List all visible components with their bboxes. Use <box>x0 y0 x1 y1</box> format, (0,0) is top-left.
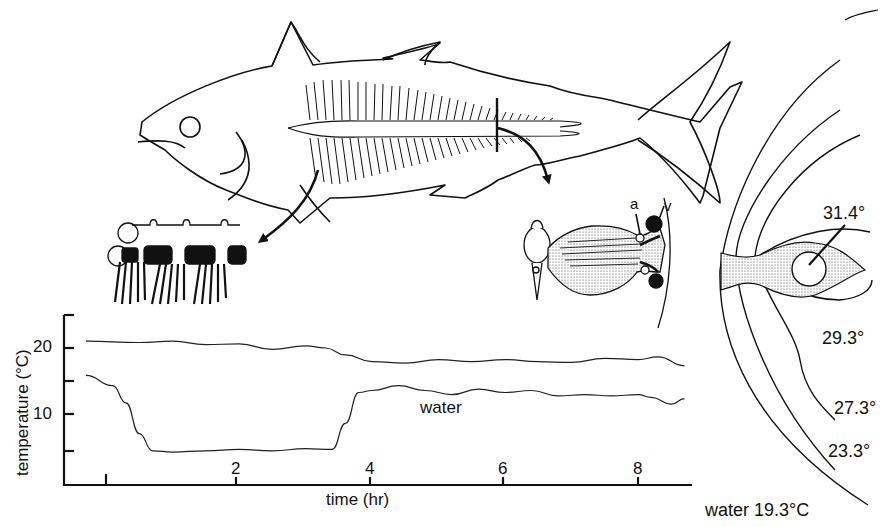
isotherm-31-4-core <box>792 252 826 286</box>
gill-filament-detail <box>108 220 246 304</box>
vein-ventral <box>649 274 663 288</box>
x-tick-6: 6 <box>498 460 507 477</box>
y-tick-20: 20 <box>33 338 52 355</box>
lateral-rete-vessels <box>288 80 581 184</box>
series-body-temperature <box>86 341 685 366</box>
artery-ventral <box>641 266 649 274</box>
fish-mouth <box>138 141 185 148</box>
fish-body-outline <box>140 22 742 223</box>
arrow-to-gill-detail <box>262 170 318 240</box>
gill-cover <box>220 132 245 174</box>
rete-cross-section-detail <box>524 198 670 328</box>
artery-label: a <box>630 196 638 211</box>
vertebra-centrum <box>524 227 550 263</box>
isotherm-label-27-3: 27.3° <box>834 399 876 417</box>
isotherm-body-section <box>720 10 878 505</box>
water-temperature-label: water 19.3°C <box>705 501 809 519</box>
x-axis <box>64 474 692 485</box>
vein-label: v <box>664 198 672 213</box>
x-tick-8: 8 <box>633 460 642 477</box>
pectoral-fin <box>300 185 330 222</box>
artery-dorsal <box>636 234 644 242</box>
series-water-temperature <box>86 375 685 452</box>
isotherm-label-23-3: 23.3° <box>828 442 870 460</box>
x-axis-label: time (hr) <box>326 491 389 508</box>
caudal-fin <box>638 42 730 203</box>
y-axis <box>64 315 74 486</box>
rete-dorsal-branches <box>306 80 553 120</box>
x-tick-2: 2 <box>231 460 240 477</box>
figure-canvas <box>0 0 895 527</box>
first-dorsal-fin <box>272 22 320 66</box>
water-series-label: water <box>420 399 462 416</box>
gill-lamellae <box>115 262 226 304</box>
operculum-edge <box>228 140 249 200</box>
y-tick-10: 10 <box>33 405 52 422</box>
neural-spine <box>531 221 543 229</box>
fish-eye <box>180 117 200 137</box>
y-axis-label: temperature (°C) <box>14 349 31 476</box>
isotherm-label-31-4: 31.4° <box>823 204 865 222</box>
tuna-fish-illustration <box>138 22 742 223</box>
isotherm-label-29-3: 29.3° <box>822 329 864 347</box>
temperature-chart <box>64 315 692 486</box>
x-tick-4: 4 <box>365 460 374 477</box>
